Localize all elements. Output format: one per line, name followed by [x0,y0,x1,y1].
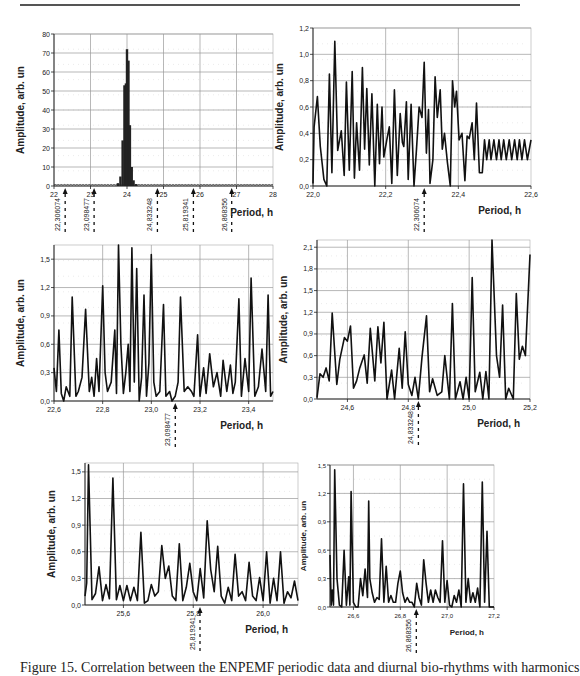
y-tick-label: 30 [42,126,50,133]
y-tick-label: 2,1 [303,244,313,251]
y-tick-label: 0,3 [318,576,327,582]
y-tick-label: 1,2 [318,491,327,497]
marker-label: 22,306074 [413,198,420,231]
y-tick-label: 0,0 [303,396,313,403]
x-tick-label: 25,0 [462,404,476,411]
x-tick-label: 22,2 [379,191,393,198]
y-tick-label: 1,0 [299,51,309,58]
y-tick-label: 0,6 [40,341,50,348]
x-tick-label: 25 [160,191,168,198]
x-tick-label: 25,2 [523,404,537,411]
x-tick-label: 22,8 [96,406,110,413]
chart-zoom-22.6-23.5: 0,00,30,60,91,21,522,622,823,023,223,4Am… [15,245,273,449]
x-axis-label: Period, h [220,420,263,431]
y-tick-label: 0,6 [71,548,81,555]
marker-label: 26,868356 [221,198,228,231]
x-tick-label: 27 [233,191,241,198]
y-axis-label: Amplitude, arb. un [15,66,26,154]
y-tick-label: 1,2 [40,284,50,291]
x-tick-label: 24,8 [401,404,415,411]
x-axis-label: Period, h [477,418,520,429]
y-tick-label: 0,0 [318,605,327,611]
y-tick-label: 0,9 [303,330,313,337]
marker-label: 25,819341 [189,617,196,650]
y-tick-label: 0,6 [318,548,327,554]
y-tick-label: 60 [42,69,50,76]
x-tick-label: 23,2 [193,406,207,413]
y-tick-label: 20 [42,145,50,152]
y-tick-label: 10 [42,164,50,171]
y-tick-label: 1,5 [71,468,81,475]
y-axis-label: Amplitude, arb. un [46,490,57,578]
marker-label: 23,098477 [164,413,171,446]
x-tick-label: 24 [123,191,131,198]
figure-caption: Figure 15. Correlation between the ENPEM… [20,660,580,676]
y-tick-label: 0,0 [40,398,50,405]
marker-arrow-icon [416,401,421,407]
x-tick-label: 24,6 [341,404,355,411]
y-tick-label: 1,2 [303,309,313,316]
x-tick-label: 22 [50,191,58,198]
y-tick-label: 1,8 [303,265,313,272]
marker-label: 22,306074 [54,198,61,231]
marker-label: 25,819341 [182,198,189,231]
bar [135,184,137,186]
x-tick-label: 26,6 [348,613,360,619]
x-tick-label: 28 [269,191,277,198]
x-tick-label: 22,0 [306,191,320,198]
y-tick-label: 0,3 [71,575,81,582]
x-axis-label: Period, h [245,624,288,635]
y-tick-label: 1,5 [318,463,327,469]
marker-label: 24,833248 [407,411,414,444]
x-tick-label: 25,6 [117,610,131,617]
y-tick-label: 0,9 [71,522,81,529]
y-tick-label: 0 [46,183,50,190]
x-tick-label: 26,0 [256,610,270,617]
plot-area [317,240,530,399]
x-axis-label: Period, h [450,628,484,637]
y-tick-label: 1,5 [40,256,50,263]
marker-arrow-icon [173,403,178,409]
marker-arrow-icon [414,609,419,615]
y-tick-label: 0,0 [299,183,309,190]
y-tick-label: 0,9 [318,519,327,525]
x-tick-label: 22,6 [524,191,538,198]
x-tick-label: 27,0 [441,613,453,619]
x-axis-label: Period, h [230,207,273,218]
x-tick-label: 22,6 [47,406,61,413]
y-tick-label: 1,2 [71,495,81,502]
y-tick-label: 50 [42,88,50,95]
x-axis-label: Period, h [478,205,521,216]
y-tick-label: 0,2 [299,156,309,163]
chart-zoom-26.5-27.2: 0,00,30,60,91,21,526,626,827,027,2Amplit… [299,463,500,656]
bar [119,177,121,187]
x-tick-label: 23,4 [242,406,256,413]
bar [132,180,134,186]
y-tick-label: 0,6 [303,352,313,359]
y-axis-label: Amplitude, arb. un [299,501,308,571]
chart-zoom-22.0-22.6: 0,00,20,40,60,81,01,222,022,222,422,6Amp… [274,25,538,235]
y-tick-label: 0,0 [71,602,81,609]
y-axis-label: Amplitude, arb. un [278,276,289,364]
bar [117,183,119,186]
x-tick-label: 25,8 [186,610,200,617]
marker-arrow-icon [422,188,427,194]
y-tick-label: 40 [42,107,50,114]
y-tick-label: 0,9 [40,312,50,319]
x-tick-label: 26,8 [394,613,406,619]
y-tick-label: 0,4 [299,130,309,137]
x-tick-label: 22,4 [452,191,466,198]
y-tick-label: 1,2 [299,25,309,32]
x-tick-label: 27,2 [488,613,500,619]
y-axis-label: Amplitude, arb. un [274,63,285,151]
marker-label: 26,868356 [405,619,412,652]
chart-zoom-25.5-26.1: 0,00,30,60,91,21,525,625,826,0Amplitude,… [46,463,298,653]
y-tick-label: 0,3 [40,369,50,376]
chart-overview: 0102030405060708022232425262728Amplitude… [15,31,277,235]
chart-zoom-24.5-25.2: 0,00,30,60,91,21,51,82,124,624,825,025,2… [278,240,537,447]
x-tick-label: 23,0 [145,406,159,413]
y-tick-label: 0,3 [303,374,313,381]
y-tick-label: 70 [42,50,50,57]
marker-arrow-icon [63,188,68,194]
